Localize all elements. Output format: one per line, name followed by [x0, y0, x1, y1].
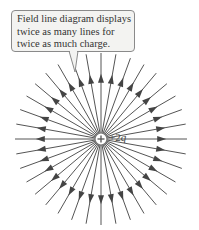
arrowhead-icon: [98, 74, 104, 83]
arrowhead-icon: [40, 155, 49, 161]
arrowhead-icon: [79, 78, 85, 87]
arrowhead-icon: [45, 165, 54, 172]
callout-box: Field line diagram displays twice as man…: [11, 10, 135, 52]
arrowhead-icon: [153, 117, 162, 123]
arrowhead-icon: [98, 195, 104, 204]
arrowhead-icon: [127, 186, 134, 195]
arrowhead-icon: [37, 146, 46, 152]
field-line: [86, 54, 100, 134]
field-line: [102, 54, 116, 134]
arrowhead-icon: [156, 126, 165, 132]
charge-value: +2: [109, 131, 121, 143]
arrowhead-icon: [79, 191, 85, 200]
charge-symbol: q: [121, 131, 127, 143]
arrowhead-icon: [156, 146, 165, 152]
arrowhead-icon: [45, 106, 54, 113]
arrowhead-icon: [36, 136, 45, 142]
charge-label: +2q: [109, 131, 126, 143]
arrowhead-icon: [68, 186, 75, 195]
field-line: [86, 144, 100, 224]
arrowhead-icon: [148, 165, 157, 172]
arrowhead-icon: [68, 83, 75, 92]
field-line: [16, 124, 96, 138]
arrowhead-icon: [40, 117, 49, 123]
arrowhead-icon: [88, 75, 94, 84]
arrowhead-icon: [153, 155, 162, 161]
arrowhead-icon: [117, 78, 123, 87]
callout-line-1: Field line diagram displays: [17, 13, 129, 26]
arrowhead-icon: [108, 75, 114, 84]
field-line: [16, 140, 96, 154]
arrowhead-icon: [127, 83, 134, 92]
arrowhead-icon: [37, 126, 46, 132]
arrowhead-icon: [148, 106, 157, 113]
field-line: [102, 144, 116, 224]
callout-line-3: twice as much charge.: [17, 38, 129, 51]
arrowhead-icon: [108, 194, 114, 203]
arrowhead-icon: [88, 194, 94, 203]
callout-tail: [69, 51, 78, 72]
arrowhead-icon: [117, 191, 123, 200]
positive-charge-icon: [95, 133, 107, 145]
tail-joint: [70, 50, 77, 52]
callout-line-2: twice as many lines for: [17, 26, 129, 39]
arrowhead-icon: [157, 136, 166, 142]
